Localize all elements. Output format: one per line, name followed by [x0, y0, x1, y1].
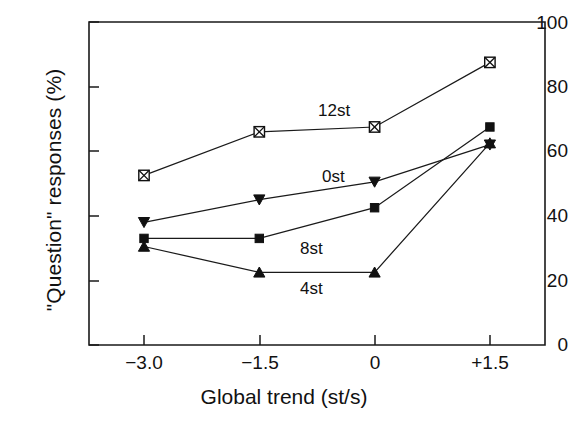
data-point-0st--3.0: [138, 218, 149, 228]
data-point-12st--3.0: [139, 170, 149, 180]
data-point-12st-+1.5: [485, 57, 495, 67]
data-point-8st-+1.5: [486, 123, 494, 131]
series-layer: [138, 57, 495, 277]
data-point-12st-0: [369, 122, 379, 132]
series-line-12st: [144, 62, 490, 175]
x-tick-marks: [144, 335, 490, 345]
series-line-8st: [144, 127, 490, 238]
chart-figure: "Question" responses (%) Global trend (s…: [0, 0, 568, 430]
plot-canvas: [0, 0, 568, 430]
data-point-8st--1.5: [255, 234, 263, 242]
y-tick-marks: [89, 22, 99, 345]
data-point-12st--1.5: [254, 127, 264, 137]
data-point-8st-0: [370, 204, 378, 212]
annotation-leaders: [260, 122, 312, 283]
series-line-4st: [144, 143, 490, 272]
